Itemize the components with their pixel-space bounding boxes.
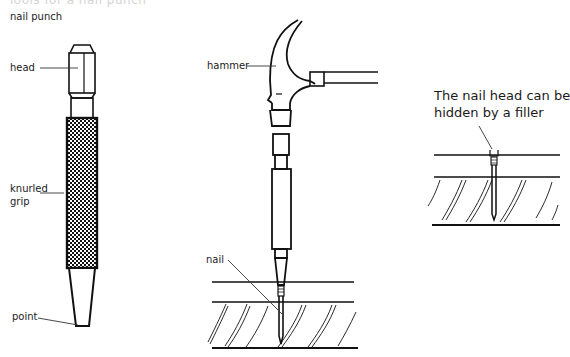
note-line-1: The nail head can be — [434, 87, 570, 104]
label-knurled: knurled — [10, 183, 48, 195]
punch-point — [69, 268, 95, 326]
label-grip: grip — [10, 196, 30, 208]
nail-leader-line — [228, 260, 282, 314]
nail-middle — [278, 286, 284, 344]
label-head: head — [10, 62, 35, 74]
label-nail: nail — [206, 254, 224, 266]
nail-punch-illustration — [67, 45, 97, 326]
punch-in-use-head — [273, 134, 289, 155]
hammer-handle-collar — [310, 72, 324, 86]
filler-leader-line — [479, 126, 492, 149]
label-hammer: hammer — [207, 60, 249, 72]
hammer-claw-back — [287, 21, 310, 81]
label-point: point — [12, 311, 38, 323]
note-line-2: hidden by a filler — [434, 104, 544, 121]
punch-in-use-point — [275, 258, 287, 285]
nail-right — [490, 150, 498, 220]
punch-head — [69, 53, 95, 93]
hammer-illustration — [268, 20, 378, 126]
punch-in-use — [272, 134, 291, 285]
punch-in-use-body — [272, 169, 291, 249]
hammer-striking-face — [270, 110, 291, 126]
punch-head-cap — [70, 45, 94, 53]
punch-knurled-grip — [67, 118, 97, 268]
punch-neck — [71, 98, 93, 118]
